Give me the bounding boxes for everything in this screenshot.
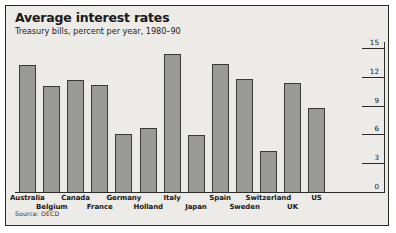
- y-tick-label-6: 6: [374, 125, 379, 133]
- bar-canada: [67, 80, 84, 193]
- y-tick-label-9: 9: [374, 97, 379, 105]
- y-tick-3: [362, 163, 384, 164]
- y-tick-label-0: 0: [374, 183, 379, 191]
- bar-germany: [115, 134, 132, 193]
- y-tick-9: [362, 106, 384, 107]
- plot-area: [15, 49, 362, 193]
- chart-header: Average interest rates Treasury bills, p…: [6, 6, 388, 39]
- bar-us: [308, 108, 325, 193]
- y-tick-6: [362, 134, 384, 135]
- bar-italy: [164, 54, 181, 193]
- y-tick-15: [362, 48, 384, 49]
- category-label-italy: Italy: [164, 194, 181, 203]
- bar-holland: [140, 128, 157, 193]
- y-tick-label-3: 3: [374, 154, 379, 162]
- category-label-sweden: Sweden: [229, 203, 259, 212]
- source-note: Source: OECD: [15, 210, 59, 217]
- category-label-uk: UK: [287, 203, 298, 212]
- y-axis-spine: [384, 42, 385, 193]
- category-label-france: France: [87, 203, 113, 212]
- chart-title: Average interest rates: [15, 11, 379, 25]
- bar-series: [15, 49, 362, 193]
- x-axis-category-labels: AustraliaBelgiumCanadaFranceGermanyHolla…: [15, 194, 362, 216]
- chart-figure: Average interest rates Treasury bills, p…: [5, 5, 389, 226]
- bar-france: [91, 85, 108, 193]
- category-label-holland: Holland: [134, 203, 163, 212]
- category-label-canada: Canada: [61, 194, 90, 203]
- category-label-japan: Japan: [185, 203, 207, 212]
- bar-switzerland: [260, 151, 277, 193]
- category-label-spain: Spain: [209, 194, 231, 203]
- chart-subtitle: Treasury bills, percent per year, 1980–9…: [15, 26, 379, 37]
- y-axis: 03691215: [362, 6, 390, 227]
- category-label-germany: Germany: [106, 194, 141, 203]
- bar-sweden: [236, 79, 253, 193]
- y-tick-label-15: 15: [370, 39, 379, 47]
- category-label-us: US: [311, 194, 322, 203]
- y-tick-12: [362, 77, 384, 78]
- category-label-switzerland: Switzerland: [246, 194, 292, 203]
- bar-spain: [212, 64, 229, 193]
- bar-japan: [188, 135, 205, 193]
- y-tick-0: [362, 192, 384, 193]
- bar-uk: [284, 83, 301, 193]
- x-axis-baseline: [15, 192, 384, 193]
- y-tick-label-12: 12: [370, 68, 379, 76]
- bar-australia: [19, 65, 36, 193]
- bar-belgium: [43, 86, 60, 193]
- category-label-australia: Australia: [10, 194, 45, 203]
